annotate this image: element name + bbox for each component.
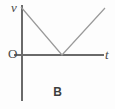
y-axis-label: v bbox=[11, 1, 17, 14]
velocity-time-graph-figure: v t O B bbox=[0, 0, 115, 109]
origin-label: O bbox=[8, 47, 17, 60]
x-axis-label: t bbox=[105, 48, 109, 61]
velocity-curve bbox=[21, 7, 105, 55]
figure-caption: B bbox=[0, 86, 115, 98]
